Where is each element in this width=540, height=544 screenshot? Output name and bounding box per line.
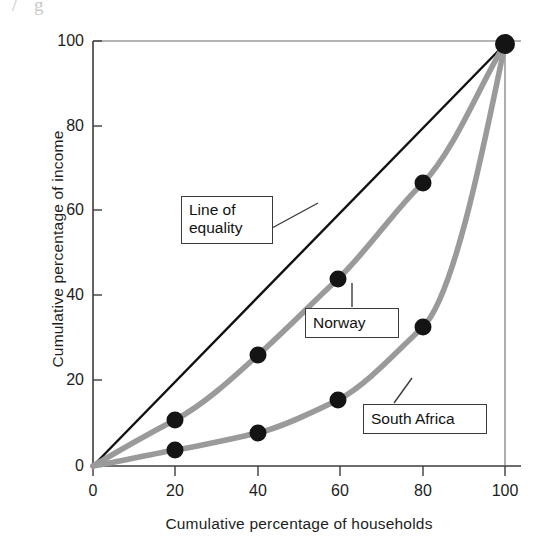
x-tick-label-100: 100 [483, 482, 527, 500]
x-axis-ticks [93, 466, 505, 476]
data-point-norway-80 [415, 175, 432, 192]
annotation-line-of-equality: Line of equality [181, 196, 273, 244]
data-point-norway-40 [250, 347, 267, 364]
y-axis-ticks [93, 41, 102, 466]
data-point-norway-60 [330, 271, 347, 288]
data-point-south-africa-40 [250, 425, 267, 442]
markers-south-africa [167, 319, 432, 459]
data-point-south-africa-60 [330, 392, 347, 409]
x-tick-label-40: 40 [236, 482, 280, 500]
x-tick-label-60: 60 [318, 482, 362, 500]
y-tick-label-20: 20 [44, 371, 84, 389]
annotation-south-africa: South Africa [363, 404, 487, 434]
y-axis-title: Cumulative percentage of income [49, 129, 67, 369]
data-point-endpoint-100 [495, 34, 515, 54]
data-point-south-africa-20 [167, 442, 184, 459]
y-tick-label-0: 0 [44, 457, 84, 475]
lorenz-curve-figure: / g [0, 0, 540, 544]
x-axis-title: Cumulative percentage of households [93, 515, 505, 533]
x-tick-label-0: 0 [71, 482, 115, 500]
leader-line-south-africa [394, 378, 412, 403]
data-point-norway-20 [167, 412, 184, 429]
x-tick-label-80: 80 [401, 482, 445, 500]
y-tick-label-100: 100 [44, 32, 84, 50]
series-line-of-equality [93, 44, 505, 466]
x-tick-label-20: 20 [153, 482, 197, 500]
leader-line-equality [272, 203, 318, 228]
annotation-norway: Norway [305, 308, 399, 338]
data-point-south-africa-80 [415, 319, 432, 336]
